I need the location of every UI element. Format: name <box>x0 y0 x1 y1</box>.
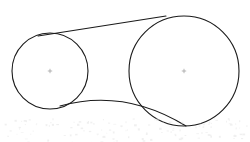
figure-background <box>0 0 250 142</box>
figure-root <box>0 0 250 142</box>
geometry-figure-canvas <box>0 0 250 142</box>
